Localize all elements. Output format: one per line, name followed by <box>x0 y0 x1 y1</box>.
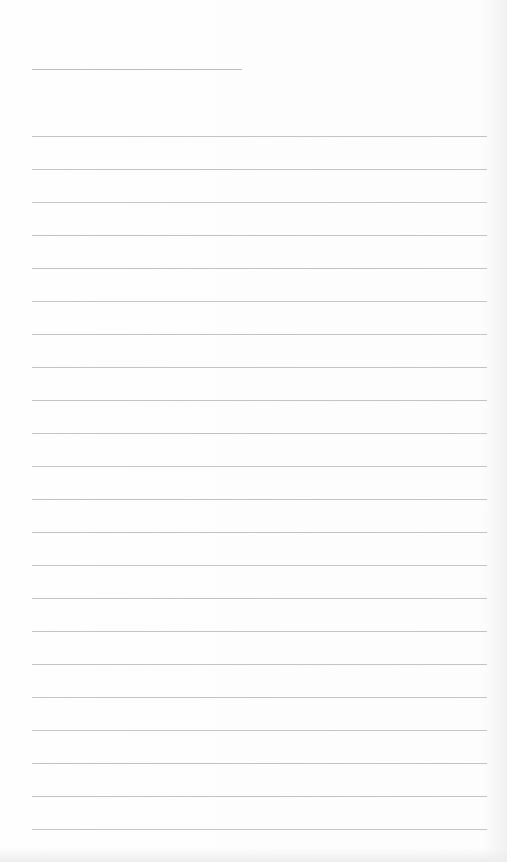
ruled-line <box>32 697 487 698</box>
ruled-line <box>32 829 487 830</box>
ruled-line <box>32 367 487 368</box>
ruled-line <box>32 301 487 302</box>
ruled-line <box>32 598 487 599</box>
lined-paper-sheet <box>0 0 507 862</box>
ruled-line <box>32 334 487 335</box>
ruled-line <box>32 763 487 764</box>
ruled-line <box>32 730 487 731</box>
ruled-line <box>32 400 487 401</box>
ruled-line <box>32 169 487 170</box>
ruled-line <box>32 631 487 632</box>
ruled-line <box>32 565 487 566</box>
ruled-line <box>32 664 487 665</box>
ruled-line <box>32 235 487 236</box>
ruled-line <box>32 466 487 467</box>
ruled-line <box>32 136 487 137</box>
ruled-line <box>32 532 487 533</box>
ruled-line <box>32 433 487 434</box>
ruled-line <box>32 202 487 203</box>
header-name-line <box>32 69 242 70</box>
ruled-line <box>32 796 487 797</box>
ruled-line <box>32 499 487 500</box>
ruled-line <box>32 268 487 269</box>
